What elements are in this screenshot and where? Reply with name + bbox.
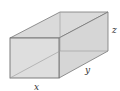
front-face — [10, 38, 59, 78]
label-z: z — [111, 25, 117, 35]
box-diagram: x y z — [0, 0, 120, 91]
label-x: x — [34, 82, 39, 91]
label-y: y — [84, 65, 91, 75]
